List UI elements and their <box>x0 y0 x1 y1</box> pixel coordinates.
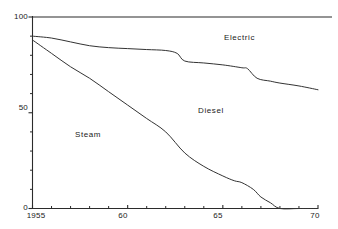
series-annotation-steam: Steam <box>75 130 101 139</box>
x-axis-tick-label-1955: 1955 <box>22 211 50 220</box>
x-axis-tick-label-60: 60 <box>111 211 135 220</box>
x-axis-tick-label-70: 70 <box>303 211 327 220</box>
y-axis-tick-label-100: 100 <box>2 12 28 21</box>
chart-container: 100 50 0 1955 60 65 70 Electric Diesel S… <box>0 0 338 229</box>
y-axis-tick-label-50: 50 <box>2 103 28 112</box>
series-line-steam-boundary <box>33 40 319 209</box>
series-line-electric-boundary <box>33 36 319 90</box>
series-annotation-electric: Electric <box>224 33 255 42</box>
series-annotation-diesel: Diesel <box>198 106 224 115</box>
y-axis-major-ticks <box>29 17 33 209</box>
chart-plot-area <box>0 0 338 229</box>
x-axis-tick-label-65: 65 <box>206 211 230 220</box>
